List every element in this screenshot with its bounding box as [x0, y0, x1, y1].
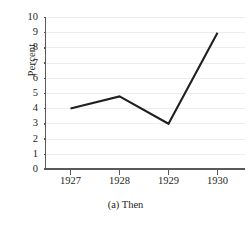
x-axis-tick-labels: 1927 1928 1929 1930: [44, 175, 245, 191]
y-tick-label: 2: [24, 134, 38, 144]
y-tick-label: 7: [24, 58, 38, 68]
y-tick-label: 1: [24, 149, 38, 159]
y-tick-label: 5: [24, 88, 38, 98]
x-tick-label-1929: 1929: [149, 175, 189, 186]
y-tick-label: 6: [24, 73, 38, 83]
x-tick-label-1928: 1928: [100, 175, 140, 186]
chart-canvas: [44, 17, 245, 183]
figure-then: Percent 10 9 8 7 6 5 4 3 2 1 0: [0, 0, 251, 225]
y-tick-label: 10: [24, 12, 38, 22]
x-tick-label-1930: 1930: [198, 175, 238, 186]
y-tick-label: 8: [24, 42, 38, 52]
y-tick-label: 4: [24, 103, 38, 113]
y-tick-label: 3: [24, 118, 38, 128]
y-tick-label: 0: [24, 164, 38, 174]
y-axis-tick-labels: 10 9 8 7 6 5 4 3 2 1 0: [22, 17, 38, 169]
plot-area: [44, 17, 245, 169]
y-tick-label: 9: [24, 27, 38, 37]
figure-caption: (a) Then: [0, 199, 251, 210]
x-axis-ticks: [71, 169, 218, 174]
x-tick-label-1927: 1927: [51, 175, 91, 186]
